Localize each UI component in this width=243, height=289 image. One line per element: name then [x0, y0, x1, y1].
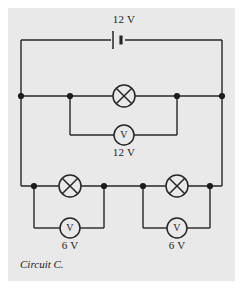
junction-dot-mid-inner-right: [174, 93, 180, 99]
circuit-schematic: [0, 0, 243, 289]
junction-dot-mid-right: [219, 93, 225, 99]
voltmeter-bottom-right-reading-label: 6 V: [169, 239, 186, 251]
battery-voltage-label: 12 V: [113, 13, 135, 25]
voltmeter-top-letter: V: [120, 129, 127, 140]
lamp-top-icon: [113, 85, 135, 107]
junction-dot-bottom-1: [31, 183, 37, 189]
junction-dot-mid-left: [18, 93, 24, 99]
voltmeter-bottom-right-letter: V: [173, 222, 180, 233]
circuit-diagram-figure: 12 V V 12 V V 6 V V 6 V Circuit C.: [0, 0, 243, 289]
figure-caption: Circuit C.: [20, 258, 64, 270]
lamp-bottom-right-icon: [166, 175, 188, 197]
voltmeter-bottom-left-letter: V: [66, 222, 73, 233]
voltmeter-bottom-left-reading-label: 6 V: [62, 239, 79, 251]
junction-dot-bottom-4: [207, 183, 213, 189]
junction-dot-bottom-2: [101, 183, 107, 189]
voltmeter-top-reading-label: 12 V: [113, 146, 135, 158]
lamp-bottom-left-icon: [59, 175, 81, 197]
junction-dot-bottom-3: [140, 183, 146, 189]
junction-dot-mid-inner-left: [67, 93, 73, 99]
